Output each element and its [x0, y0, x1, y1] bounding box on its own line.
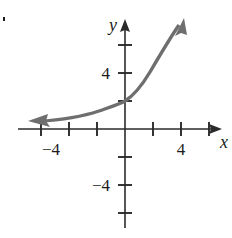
y-axis-label: y	[107, 15, 117, 35]
coordinate-plane: −4 4 4 −4 y x	[0, 0, 232, 238]
y-tick-label-negative-four: −4	[92, 176, 111, 195]
scan-speck	[3, 17, 5, 21]
y-tick-label-four: 4	[102, 64, 111, 83]
x-tick-label-four: 4	[177, 140, 186, 159]
graph-figure: −4 4 4 −4 y x	[0, 0, 232, 238]
x-axis-label: x	[219, 132, 228, 152]
x-tick-label-negative-four: −4	[42, 140, 61, 159]
